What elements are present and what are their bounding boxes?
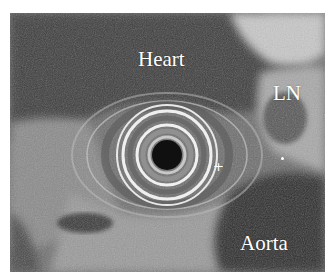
- lymph-node-label: LN: [273, 83, 301, 104]
- plus-marker-icon: +: [213, 160, 224, 173]
- ultrasound-image: Heart LN Aorta +: [10, 13, 325, 272]
- heart-label: Heart: [138, 49, 185, 70]
- dot-marker-icon: [281, 157, 284, 160]
- aorta-label: Aorta: [240, 233, 288, 254]
